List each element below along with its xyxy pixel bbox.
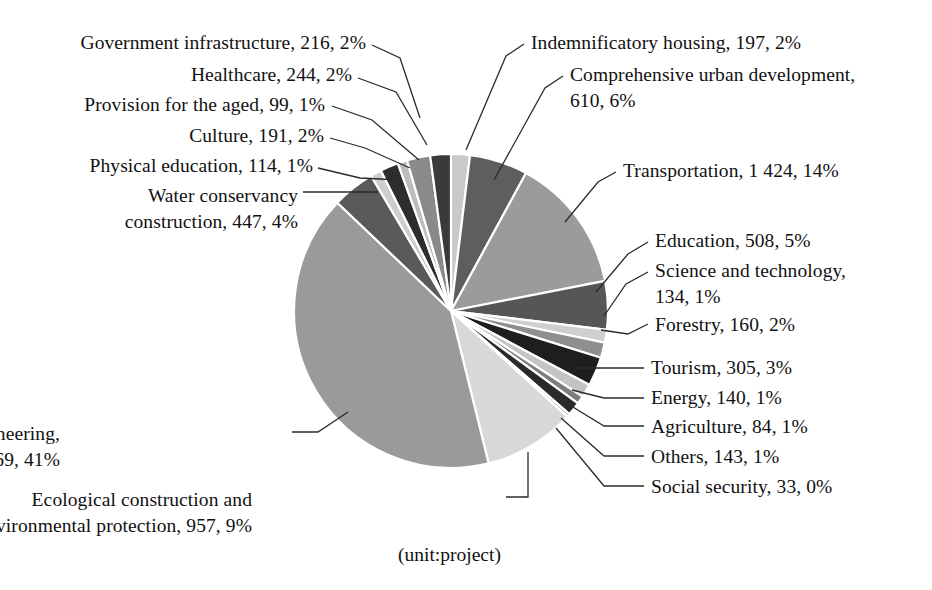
pie-label-line: Government infrastructure, 216, 2% — [80, 30, 366, 56]
pie-label-line: Physical education, 114, 1% — [90, 153, 313, 179]
pie-label-social-security: Social security, 33, 0% — [651, 474, 832, 500]
pie-label-water-conservancy-construction: Water conservancyconstruction, 447, 4% — [125, 183, 298, 235]
pie-label-line: Others, 143, 1% — [651, 444, 779, 470]
pie-label-line: Municipal engineering, — [0, 421, 60, 447]
pie-label-tourism: Tourism, 305, 3% — [651, 355, 792, 381]
pie-label-energy: Energy, 140, 1% — [651, 385, 782, 411]
pie-label-culture: Culture, 191, 2% — [189, 123, 324, 149]
pie-label-line: Indemnificatory housing, 197, 2% — [531, 30, 801, 56]
pie-chart-page: Government infrastructure, 216, 2%Health… — [0, 0, 932, 590]
leader-line-science-and-technology — [604, 272, 648, 316]
pie-label-line: Water conservancy — [125, 183, 298, 209]
leader-line-social-security — [556, 428, 644, 486]
pie-label-comprehensive-urban-development: Comprehensive urban development,610, 6% — [570, 62, 855, 114]
leader-line-government-infrastructure — [372, 45, 420, 118]
pie-label-line: 4 169, 41% — [0, 447, 60, 473]
pie-label-line: Transportation, 1 424, 14% — [623, 158, 839, 184]
pie-label-line: Comprehensive urban development, — [570, 62, 855, 88]
pie-label-ecological-construction: Ecological construction andenvironmental… — [0, 487, 252, 539]
leader-line-others — [561, 418, 644, 456]
pie-label-line: Science and technology, — [655, 258, 846, 284]
pie-label-line: construction, 447, 4% — [125, 209, 298, 235]
pie-label-line: Healthcare, 244, 2% — [191, 62, 352, 88]
pie-slices-group — [294, 154, 608, 468]
pie-label-provision-for-the-aged: Provision for the aged, 99, 1% — [84, 92, 325, 118]
pie-label-physical-education: Physical education, 114, 1% — [90, 153, 313, 179]
pie-label-healthcare: Healthcare, 244, 2% — [191, 62, 352, 88]
pie-label-transportation: Transportation, 1 424, 14% — [623, 158, 839, 184]
pie-label-line: environmental protection, 957, 9% — [0, 513, 252, 539]
pie-label-line: Energy, 140, 1% — [651, 385, 782, 411]
pie-label-education: Education, 508, 5% — [655, 228, 811, 254]
unit-caption: (unit:project) — [398, 542, 501, 568]
pie-label-government-infrastructure: Government infrastructure, 216, 2% — [80, 30, 366, 56]
pie-label-line: Social security, 33, 0% — [651, 474, 832, 500]
leader-line-agriculture — [568, 404, 644, 426]
pie-label-line: Education, 508, 5% — [655, 228, 811, 254]
pie-label-agriculture: Agriculture, 84, 1% — [651, 414, 808, 440]
leader-line-indemnificatory-housing — [466, 44, 524, 150]
pie-label-line: Culture, 191, 2% — [189, 123, 324, 149]
pie-label-municipal-engineering: Municipal engineering,4 169, 41% — [0, 421, 60, 473]
leader-line-provision-for-the-aged — [332, 106, 419, 160]
leader-line-healthcare — [358, 78, 427, 145]
pie-label-line: Agriculture, 84, 1% — [651, 414, 808, 440]
pie-label-others: Others, 143, 1% — [651, 444, 779, 470]
pie-label-line: Ecological construction and — [0, 487, 252, 513]
pie-label-forestry: Forestry, 160, 2% — [655, 312, 795, 338]
leader-line-ecological-construction — [506, 452, 528, 497]
pie-label-line: 134, 1% — [655, 284, 846, 310]
pie-label-line: Provision for the aged, 99, 1% — [84, 92, 325, 118]
pie-label-indemnificatory-housing: Indemnificatory housing, 197, 2% — [531, 30, 801, 56]
pie-label-line: Forestry, 160, 2% — [655, 312, 795, 338]
pie-label-line: 610, 6% — [570, 88, 855, 114]
pie-label-line: Tourism, 305, 3% — [651, 355, 792, 381]
pie-label-science-and-technology: Science and technology,134, 1% — [655, 258, 846, 310]
